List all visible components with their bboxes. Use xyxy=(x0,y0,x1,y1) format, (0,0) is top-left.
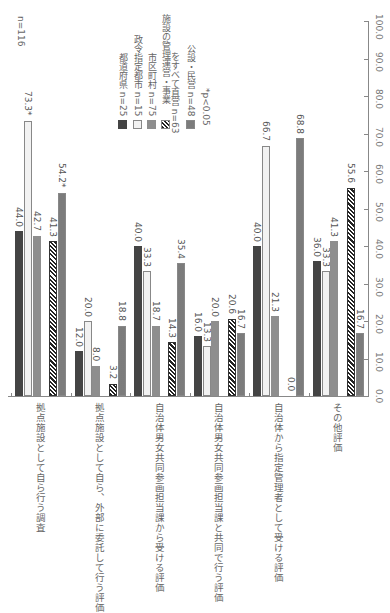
value-label: 73.3* xyxy=(24,91,32,116)
legend-swatch-1 xyxy=(118,120,127,129)
value-label: 54.2* xyxy=(58,163,66,188)
significance-note: *p<0.05 xyxy=(201,88,210,126)
value-label: 40.0 xyxy=(134,222,142,242)
bar-1 xyxy=(194,336,202,396)
axis-tick-label: 20.0 xyxy=(374,314,384,334)
baseline xyxy=(8,396,368,397)
bar-4 xyxy=(109,384,117,396)
axis-tick xyxy=(364,284,368,285)
value-label: 44.0 xyxy=(15,207,23,227)
legend-label: 都道府県 n=25 xyxy=(118,53,127,117)
value-label: 36.0 xyxy=(313,237,321,257)
bar-5 xyxy=(177,263,185,396)
value-label: 18.8 xyxy=(118,301,126,321)
value-label: 68.8 xyxy=(296,114,304,134)
legend-label: 市区町村 n=75 xyxy=(147,53,156,117)
axis-tick-label: 30.0 xyxy=(374,277,384,297)
axis-tick xyxy=(364,96,368,97)
value-label: 35.4 xyxy=(177,239,185,259)
bar-5 xyxy=(58,193,66,396)
value-label: 21.3 xyxy=(271,292,279,312)
axis-tick-label: 90.0 xyxy=(374,52,384,72)
value-label: 12.0 xyxy=(75,327,83,347)
bar-5 xyxy=(237,333,245,396)
bar-1 xyxy=(253,246,261,396)
axis-tick xyxy=(364,59,368,60)
axis-tick xyxy=(364,359,368,360)
category-label: 自治体から指定管理者として受ける評価 xyxy=(273,403,283,583)
value-label: 66.7 xyxy=(262,121,270,141)
value-label: 40.0 xyxy=(253,222,261,242)
category-separator xyxy=(11,393,12,397)
legend-swatch-2 xyxy=(133,120,142,129)
bar-2 xyxy=(322,271,330,396)
bar-3 xyxy=(211,321,219,396)
legend-swatch-3 xyxy=(147,120,156,129)
value-label: 33.3 xyxy=(322,247,330,267)
axis-tick-label: 70.0 xyxy=(374,127,384,147)
bar-4 xyxy=(228,319,236,396)
bar-3 xyxy=(330,241,338,396)
bar-4 xyxy=(347,188,355,397)
bar-1 xyxy=(15,231,23,396)
value-label: 42.7 xyxy=(33,211,41,231)
value-label: 20.6 xyxy=(228,294,236,314)
category-label: 自治体男女共同参画担当課と共同で行う評価 xyxy=(214,403,224,603)
legend-label: 公設・民営 n=48 xyxy=(186,44,195,117)
legend-label: をすべて直営 n=63 xyxy=(170,52,179,134)
bar-1 xyxy=(75,351,83,396)
bar-3 xyxy=(33,236,41,396)
bar-5 xyxy=(296,138,304,396)
value-label: 13.3 xyxy=(203,322,211,342)
category-label: 自治体男女共同参画担当課から受ける評価 xyxy=(154,403,164,593)
value-label: 55.6 xyxy=(347,163,355,183)
axis-tick-label: 80.0 xyxy=(374,89,384,109)
category-label: その他評価 xyxy=(333,403,343,453)
value-label: 0.0 xyxy=(287,377,295,391)
sample-size-label: n=116 xyxy=(16,16,25,46)
axis-tick-label: 50.0 xyxy=(374,202,384,222)
value-label: 41.3 xyxy=(330,217,338,237)
bar-2 xyxy=(203,346,211,396)
axis-tick-label: 60.0 xyxy=(374,164,384,184)
value-label: 14.3 xyxy=(168,318,176,338)
category-separator xyxy=(130,393,131,397)
bar-4 xyxy=(168,342,176,396)
bar-3 xyxy=(92,366,100,396)
bar-5 xyxy=(356,333,364,396)
bar-4 xyxy=(49,241,57,396)
axis-tick xyxy=(364,21,368,22)
legend-label: 政令指定都市 n=15 xyxy=(133,35,142,117)
value-label: 20.0 xyxy=(84,297,92,317)
bar-2 xyxy=(24,121,32,396)
bar-1 xyxy=(134,246,142,396)
value-axis xyxy=(368,21,369,396)
legend-label: 施設の管理運営・事業 xyxy=(161,14,170,104)
axis-tick xyxy=(364,134,368,135)
bar-5 xyxy=(118,326,126,397)
value-label: 8.0 xyxy=(92,347,100,361)
bar-3 xyxy=(271,316,279,396)
category-label: 拠点施設として自ら、外部に委託して行う評価 xyxy=(95,403,105,613)
axis-tick xyxy=(364,321,368,322)
legend-swatch-5 xyxy=(186,120,195,129)
category-separator xyxy=(249,393,250,397)
bar-3 xyxy=(152,326,160,396)
axis-tick xyxy=(364,396,368,397)
axis-tick-label: 10.0 xyxy=(374,352,384,372)
axis-tick-label: 100.0 xyxy=(374,14,384,40)
value-label: 41.3 xyxy=(49,217,57,237)
value-label: 18.7 xyxy=(152,301,160,321)
value-label: 33.3 xyxy=(143,247,151,267)
axis-tick-label: 40.0 xyxy=(374,239,384,259)
value-label: 16.0 xyxy=(194,312,202,332)
category-separator xyxy=(71,393,72,397)
value-label: 16.7 xyxy=(237,309,245,329)
bar-2 xyxy=(143,271,151,396)
bar-1 xyxy=(313,261,321,396)
category-separator xyxy=(309,393,310,397)
axis-tick xyxy=(364,171,368,172)
bar-2 xyxy=(262,146,270,396)
axis-tick xyxy=(364,246,368,247)
legend-swatch-4 xyxy=(161,120,170,129)
